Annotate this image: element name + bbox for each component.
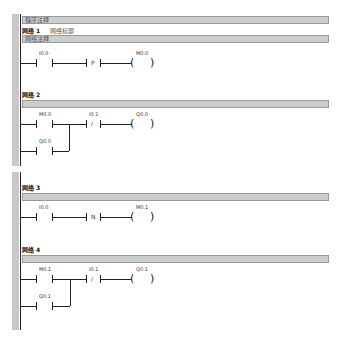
coil-close: )	[150, 57, 154, 68]
nc-address: I0.1	[89, 111, 98, 117]
coil-address: M0.1	[136, 204, 148, 210]
coil-open: (	[130, 118, 134, 129]
rung-wire	[52, 63, 86, 64]
power-rail	[20, 14, 21, 166]
rung-wire	[100, 279, 132, 280]
network-3-title[interactable]: 网络 3	[22, 184, 40, 191]
rung-wire	[100, 63, 132, 64]
contact-left	[36, 120, 37, 128]
nc-symbol: /	[91, 120, 93, 128]
contact-address: M0.1	[39, 266, 51, 272]
network-1-comment-bar[interactable]: 网络注释	[22, 35, 329, 43]
contact-left	[36, 275, 37, 283]
network-4-title[interactable]: 网络 4	[22, 246, 40, 253]
ladder-panel-2: 网络 3 I0.0 N ( ) M0.1 网络 4 M0.1 Q0.1 / I0…	[12, 172, 332, 330]
branch-address: Q0.1	[39, 293, 51, 299]
ladder-panel-1: 程序注释 网络 1 网络标题 网络注释 I0.0 P ( ) M0.0 网络 2…	[12, 14, 332, 166]
coil-close: )	[150, 211, 154, 222]
rung-wire	[21, 124, 36, 125]
rung-wire	[21, 63, 36, 64]
contact-address: I0.0	[39, 204, 48, 210]
network-1-title-field[interactable]: 网络标题	[50, 27, 74, 34]
network-4-comment-bar[interactable]	[22, 255, 329, 263]
coil-address: M0.0	[136, 50, 148, 56]
program-comment-bar[interactable]: 程序注释	[22, 16, 329, 24]
branch-address: Q0.0	[39, 138, 51, 144]
contact-address: M0.0	[39, 111, 51, 117]
coil-close: )	[150, 273, 154, 284]
left-gutter	[12, 172, 19, 330]
contact-left	[36, 213, 37, 221]
branch-wire	[52, 306, 70, 307]
coil-open: (	[130, 273, 134, 284]
rung-wire	[52, 217, 86, 218]
branch-join	[70, 279, 71, 306]
rung-wire	[100, 124, 132, 125]
branch-join	[69, 124, 70, 151]
nc-contact-left	[86, 120, 87, 128]
branch-contact-left	[36, 147, 37, 155]
rung-wire	[52, 279, 86, 280]
branch-contact-left	[36, 302, 37, 310]
positive-edge-symbol: P	[91, 59, 95, 67]
coil-open: (	[130, 57, 134, 68]
network-2-title[interactable]: 网络 2	[22, 91, 40, 98]
coil-close: )	[150, 118, 154, 129]
left-gutter	[12, 14, 19, 166]
p-contact-left	[86, 59, 87, 67]
network-3-comment-bar[interactable]	[22, 193, 329, 201]
network-1-title[interactable]: 网络 1	[22, 27, 40, 34]
branch-wire	[52, 151, 69, 152]
rung-wire	[100, 217, 132, 218]
nc-contact-left	[86, 275, 87, 283]
rung-wire	[21, 279, 36, 280]
coil-address: Q0.0	[136, 111, 148, 117]
negative-edge-symbol: N	[91, 213, 96, 221]
network-2-comment-bar[interactable]	[22, 100, 329, 108]
nc-symbol: /	[91, 275, 93, 283]
coil-open: (	[130, 211, 134, 222]
coil-address: Q0.1	[136, 266, 148, 272]
nc-address: I0.1	[89, 266, 98, 272]
rung-wire	[21, 217, 36, 218]
n-contact-left	[86, 213, 87, 221]
contact-left	[36, 59, 37, 67]
branch-wire	[21, 151, 36, 152]
branch-wire	[21, 306, 36, 307]
contact-address: I0.0	[39, 50, 48, 56]
